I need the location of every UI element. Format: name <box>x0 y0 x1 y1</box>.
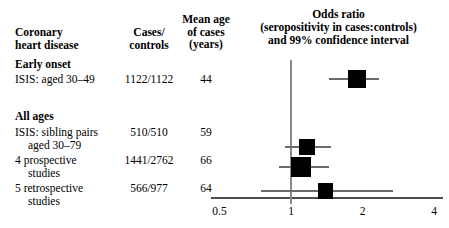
x-axis-tick-label: 4 <box>419 205 449 217</box>
row-label-isis-sibling: ISIS: sibling pairs aged 30–79 <box>15 126 123 151</box>
row-mean-age-isis-early: 44 <box>181 73 231 85</box>
odds-ratio-marker <box>299 139 315 155</box>
row-cases-retrospective: 566/977 <box>118 182 180 194</box>
row-cases-isis-sibling: 510/510 <box>118 126 180 138</box>
column-header-mean-age-line2: of cases <box>178 26 234 39</box>
row-label-isis-sibling-line1: ISIS: sibling pairs <box>15 126 98 138</box>
x-axis-tick-label: 2 <box>348 205 378 217</box>
forest-plot-panel: Odds ratio (seropositivity in cases:cont… <box>228 0 449 228</box>
odds-ratio-marker <box>318 183 334 199</box>
row-label-isis-early: ISIS: aged 30–49 <box>15 73 123 86</box>
column-header-mean-age-line3: (years) <box>178 38 234 51</box>
row-label-prospective-line1: 4 prospective <box>15 154 77 166</box>
row-cases-prospective: 1441/2762 <box>118 154 180 166</box>
column-header-disease-line2: heart disease <box>15 39 110 52</box>
column-header-disease-line1: Coronary <box>15 26 110 39</box>
row-label-isis-early-line1: ISIS: aged 30–49 <box>15 73 95 85</box>
x-axis-tick <box>290 197 292 204</box>
study-table: Coronary heart disease Cases/ controls M… <box>0 0 228 228</box>
x-axis-tick-label: 1 <box>276 205 306 217</box>
row-label-isis-sibling-line2: aged 30–79 <box>15 139 123 152</box>
column-header-mean-age-line1: Mean age <box>178 13 234 26</box>
column-header-disease: Coronary heart disease <box>15 26 110 51</box>
row-label-prospective: 4 prospective studies <box>15 154 123 179</box>
column-header-cases-line1: Cases/ <box>120 26 178 39</box>
row-mean-age-retrospective: 64 <box>181 182 231 194</box>
column-header-cases-line2: controls <box>120 39 178 52</box>
row-mean-age-prospective: 66 <box>181 154 231 166</box>
row-cases-isis-early: 1122/1122 <box>118 73 180 85</box>
plot-title-line1: Odds ratio <box>228 8 449 21</box>
row-label-retrospective-line2: studies <box>15 195 123 208</box>
x-axis-tick-label: 0.5 <box>205 205 235 217</box>
group-header-early-onset: Early onset <box>15 58 71 70</box>
forest-plot-figure: Coronary heart disease Cases/ controls M… <box>0 0 449 228</box>
null-effect-line <box>290 60 292 201</box>
row-label-retrospective: 5 retrospective studies <box>15 182 123 207</box>
odds-ratio-marker <box>348 70 365 87</box>
row-label-prospective-line2: studies <box>15 167 123 180</box>
plot-title-line2: (seropositivity in cases:controls) <box>228 21 449 34</box>
odds-ratio-marker <box>291 157 311 177</box>
row-mean-age-isis-sibling: 59 <box>181 126 231 138</box>
plot-title: Odds ratio (seropositivity in cases:cont… <box>228 8 449 47</box>
row-label-retrospective-line1: 5 retrospective <box>15 182 83 194</box>
group-header-all-ages: All ages <box>15 110 54 122</box>
column-header-mean-age: Mean age of cases (years) <box>178 13 234 51</box>
plot-title-line3: and 99% confidence interval <box>228 34 449 47</box>
column-header-cases: Cases/ controls <box>120 26 178 51</box>
